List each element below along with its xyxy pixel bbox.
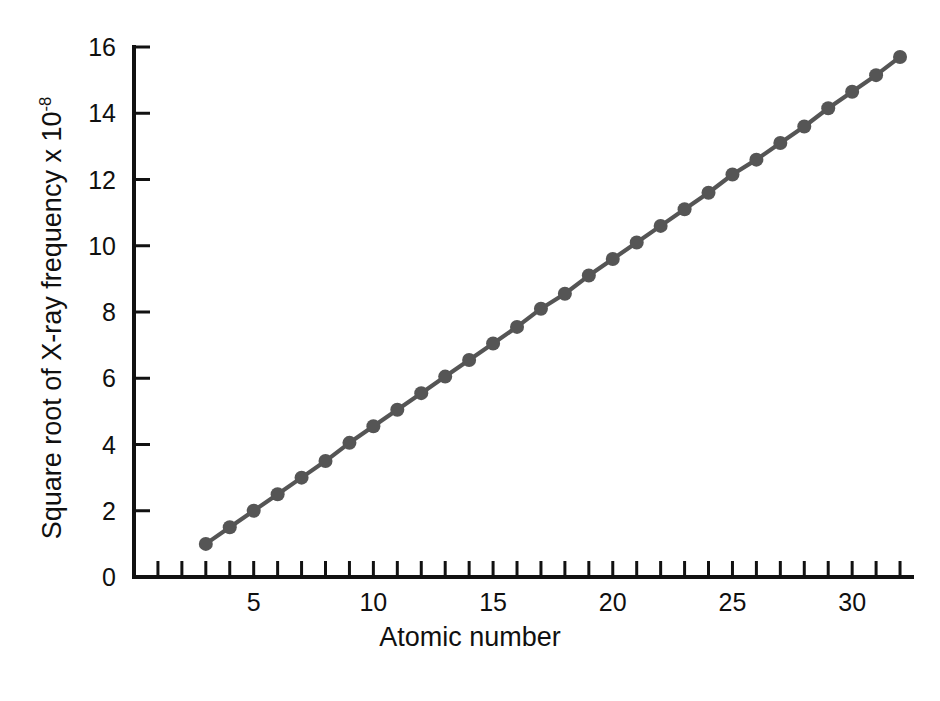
y-axis-title-exponent: -8 — [36, 97, 55, 112]
data-point — [295, 471, 309, 485]
data-point — [223, 520, 237, 534]
series-line — [206, 57, 900, 544]
data-point — [725, 168, 739, 182]
data-point — [749, 153, 763, 167]
data-point — [773, 136, 787, 150]
data-point — [510, 320, 524, 334]
data-point — [462, 353, 476, 367]
data-point — [893, 50, 907, 64]
data-point — [271, 487, 285, 501]
data-point — [678, 202, 692, 216]
y-axis-title: Square root of X-ray frequency x 10-8 — [36, 18, 68, 618]
x-tick-label: 30 — [838, 590, 866, 615]
x-tick-label: 25 — [719, 590, 747, 615]
data-point — [390, 403, 404, 417]
data-point — [702, 186, 716, 200]
data-point — [247, 504, 261, 518]
data-series — [199, 50, 907, 551]
data-point — [558, 287, 572, 301]
data-point — [199, 537, 213, 551]
data-point — [630, 235, 644, 249]
data-point — [486, 336, 500, 350]
data-point — [319, 454, 333, 468]
x-tick-label: 10 — [359, 590, 387, 615]
data-point — [654, 219, 668, 233]
data-point — [606, 252, 620, 266]
x-axis-title: Atomic number — [0, 622, 940, 653]
x-tick-label: 20 — [599, 590, 627, 615]
data-point — [869, 68, 883, 82]
y-axis-ticks — [134, 47, 150, 511]
data-point — [821, 101, 835, 115]
plot-area — [0, 0, 940, 701]
x-tick-label: 5 — [247, 590, 261, 615]
data-point — [845, 85, 859, 99]
data-point — [797, 120, 811, 134]
data-point — [366, 419, 380, 433]
data-point — [414, 386, 428, 400]
x-tick-label: 15 — [479, 590, 507, 615]
data-point — [534, 302, 548, 316]
x-axis-ticks — [158, 561, 900, 577]
y-axis-title-text: Square root of X-ray frequency x 10 — [37, 112, 67, 540]
data-point — [582, 269, 596, 283]
axes — [134, 47, 912, 577]
chart-figure: 0246810121416 51015202530 Atomic number … — [0, 0, 940, 701]
data-point — [438, 370, 452, 384]
data-point — [342, 436, 356, 450]
